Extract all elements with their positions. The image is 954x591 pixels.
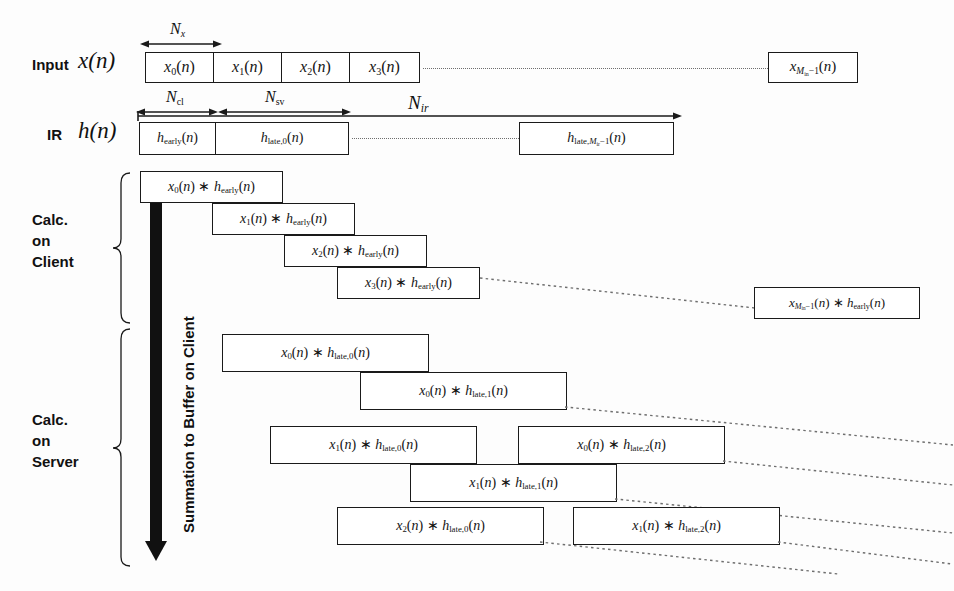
figure-canvas: Input x(n) IR h(n) Calc. on Client Calc.… bbox=[0, 0, 954, 591]
ir-block-late0: hlate,0(n) bbox=[215, 122, 349, 155]
ir-block-tail: hlate,Mir−1(n) bbox=[519, 122, 674, 155]
client-block-2: x2(n) ∗ hearly(n) bbox=[284, 235, 427, 267]
section-braces bbox=[96, 168, 134, 572]
calc-server-label-line2: on bbox=[32, 432, 50, 449]
calc-client-label-line2: on bbox=[32, 232, 50, 249]
calc-server-label-line3: Server bbox=[32, 453, 79, 470]
dim-arrow-nir bbox=[136, 110, 682, 122]
ir-row-label: IR bbox=[47, 126, 62, 143]
server-block-x0-late2: x0(n) ∗ hlate,2(n) bbox=[518, 426, 725, 464]
server-block-x1-late2: x1(n) ∗ hlate,2(n) bbox=[573, 507, 780, 545]
calc-client-label-line1: Calc. bbox=[32, 211, 68, 228]
server-block-x0-late1: x0(n) ∗ hlate,1(n) bbox=[360, 372, 567, 410]
summation-arrow-label: Summation to Buffer on Client bbox=[180, 316, 197, 533]
dim-label-nsv: Nsv bbox=[265, 88, 284, 107]
input-block-x3: x3(n) bbox=[349, 52, 420, 83]
server-block-x2-late0: x2(n) ∗ hlate,0(n) bbox=[337, 507, 544, 545]
summation-arrow-shaft bbox=[150, 185, 162, 543]
client-block-3: x3(n) ∗ hearly(n) bbox=[337, 267, 480, 299]
dim-label-nx: Nx bbox=[170, 20, 185, 39]
input-block-x1: x1(n) bbox=[213, 52, 282, 83]
summation-arrow-head bbox=[145, 541, 167, 561]
calc-server-label-line1: Calc. bbox=[32, 411, 68, 428]
dim-arrow-nx bbox=[140, 38, 222, 50]
server-block-x0-late0: x0(n) ∗ hlate,0(n) bbox=[222, 334, 429, 372]
input-row-label: Input bbox=[32, 56, 69, 73]
server-block-x1-late1: x1(n) ∗ hlate,1(n) bbox=[410, 464, 617, 502]
input-signal-label: x(n) bbox=[78, 48, 115, 74]
dim-label-ncl: Ncl bbox=[166, 88, 184, 107]
server-dotted-connector-2 bbox=[723, 461, 954, 491]
input-block-x2: x2(n) bbox=[281, 52, 350, 83]
client-block-tail: xMin−1(n) ∗ hearly(n) bbox=[754, 287, 920, 319]
ir-row-dotted-connector bbox=[352, 138, 519, 139]
input-block-x0: x0(n) bbox=[145, 52, 214, 83]
server-dotted-connector-5 bbox=[778, 542, 954, 568]
client-block-1: x1(n) ∗ hearly(n) bbox=[212, 203, 355, 235]
ir-signal-label: h(n) bbox=[78, 118, 116, 144]
input-row-dotted-connector bbox=[423, 68, 768, 69]
calc-client-label-line3: Client bbox=[32, 253, 74, 270]
ir-block-early: hearly(n) bbox=[139, 122, 216, 155]
input-block-tail: xMin−1(n) bbox=[768, 52, 858, 83]
client-tail-dotted-connector bbox=[480, 278, 755, 312]
client-block-0: x0(n) ∗ hearly(n) bbox=[140, 171, 283, 203]
server-block-x1-late0: x1(n) ∗ hlate,0(n) bbox=[270, 426, 477, 464]
